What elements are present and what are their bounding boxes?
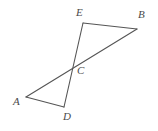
segment-BA (26, 29, 137, 97)
vertex-label-a: A (13, 96, 20, 107)
geometry-figure: ABCDE (0, 0, 158, 131)
vertex-label-b: B (138, 9, 145, 20)
vertex-label-c: C (77, 65, 84, 76)
vertex-label-d: D (63, 111, 71, 122)
segment-EB (83, 23, 137, 29)
vertex-label-e: E (76, 7, 83, 18)
segment-AD (26, 97, 64, 107)
